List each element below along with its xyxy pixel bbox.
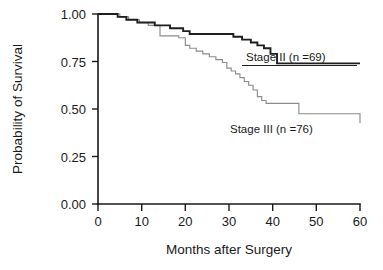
x-tick-label-40: 40	[265, 214, 279, 229]
survival-chart-figure: 1.00 0.75 0.50 0.25 0.00 0 10 20 30 40 5…	[0, 0, 383, 270]
y-tick-label-075: 0.75	[61, 55, 86, 70]
y-axis-ticks	[92, 14, 98, 204]
y-tick-label-025: 0.25	[61, 150, 86, 165]
stage-iii-series-label: Stage III (n =76)	[230, 123, 313, 135]
y-tick-label-050: 0.50	[61, 102, 86, 117]
x-tick-label-50: 50	[309, 214, 323, 229]
x-tick-label-60: 60	[353, 214, 367, 229]
plot-canvas: 1.00 0.75 0.50 0.25 0.00 0 10 20 30 40 5…	[0, 0, 383, 270]
x-axis-title: Months after Surgery	[166, 242, 292, 257]
x-tick-label-0: 0	[94, 214, 101, 229]
x-tick-label-10: 10	[134, 214, 148, 229]
x-tick-label-30: 30	[222, 214, 236, 229]
survival-curve-stage-iii	[98, 14, 360, 123]
y-tick-label-1: 1.00	[61, 7, 86, 22]
y-axis-title: Probability of Survival	[10, 44, 25, 174]
y-tick-label-000: 0.00	[61, 197, 86, 212]
x-tick-label-20: 20	[178, 214, 192, 229]
x-axis-ticks	[98, 204, 360, 211]
stage-ii-series-label: Stage II (n =69)	[246, 51, 326, 63]
